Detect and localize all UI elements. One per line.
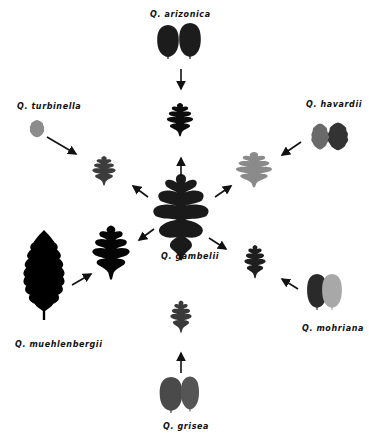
arrow-mohriana-to-hybrid — [282, 279, 298, 289]
arrow-gambelii-to-mohriana-hybrid — [209, 238, 226, 249]
diagram-canvas — [0, 0, 369, 442]
oak-hybrid-diagram: Q. arizonica Q. havardii Q. mohriana Q. … — [0, 0, 369, 442]
leaf-grisea-parents — [160, 377, 199, 414]
leaf-havardii-parents — [311, 123, 348, 151]
leaf-muehlenbergii-parent — [23, 230, 64, 320]
arrow-gambelii-to-muehlenbergii-hybrid — [139, 229, 154, 240]
label-arizonica: Q. arizonica — [150, 10, 211, 19]
label-turbinella: Q. turbinella — [17, 102, 81, 111]
leaf-turbinella-parent — [30, 120, 45, 137]
label-muehlenbergii: Q. muehlenbergii — [15, 340, 103, 349]
label-havardii: Q. havardii — [306, 100, 362, 109]
arrow-gambelii-to-havardii-hybrid — [215, 186, 231, 197]
arrow-muehlenbergii-to-hybrid — [72, 274, 91, 285]
leaf-mohriana-parents — [307, 274, 342, 310]
leaf-mohriana-hybrid — [244, 245, 265, 278]
label-gambelii: Q. gambelii — [161, 252, 219, 261]
leaf-turbinella-hybrid — [92, 156, 115, 185]
label-mohriana: Q. mohriana — [302, 324, 364, 333]
arrow-havardii-to-hybrid — [282, 142, 301, 155]
leaf-muehlenbergii-hybrid — [92, 226, 129, 280]
label-grisea: Q. grisea — [163, 422, 209, 431]
leaf-gambelii-center — [153, 174, 208, 260]
leaf-grisea-hybrid — [170, 301, 191, 333]
arrow-gambelii-to-turbinella-hybrid — [133, 186, 148, 197]
leaf-arizonica-parents — [157, 23, 201, 59]
arrow-turbinella-to-hybrid — [47, 137, 76, 154]
leaf-arizonica-hybrid — [167, 103, 193, 136]
leaf-havardii-hybrid — [236, 152, 272, 187]
